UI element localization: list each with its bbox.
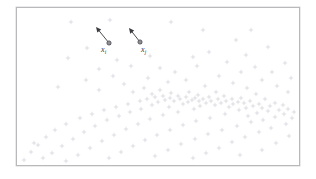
- annotation-label-xj: xj: [141, 46, 146, 54]
- annotation-label-xi: xi: [101, 46, 106, 54]
- figure-root: xi xj: [0, 0, 316, 179]
- plot-frame: [16, 7, 300, 166]
